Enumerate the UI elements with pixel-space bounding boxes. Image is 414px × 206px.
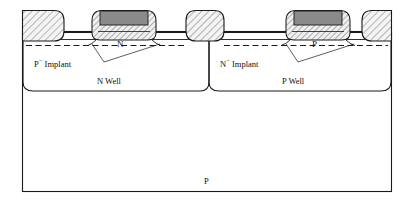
nmos-poly-gate [100,11,148,25]
sti-right [362,11,392,42]
nmos-channel-label: N [117,40,124,49]
n-well-label: N Well [97,77,121,86]
p-implant-label: P− Implant [34,58,71,68]
nmos-gate-stack [92,11,156,41]
figure-canvas: N P P− Implant N− Implant N Well P Well … [0,0,414,206]
pmos-poly-gate [294,11,342,25]
pmos-gate-stack [286,11,350,41]
sti-left [23,11,65,42]
pmos-channel-label: P [312,40,317,49]
n-implant-label: N− Implant [220,58,258,68]
sti-center [186,11,224,42]
p-well-label: P Well [282,77,304,86]
substrate-body [23,32,392,192]
substrate-label: P [204,177,209,186]
